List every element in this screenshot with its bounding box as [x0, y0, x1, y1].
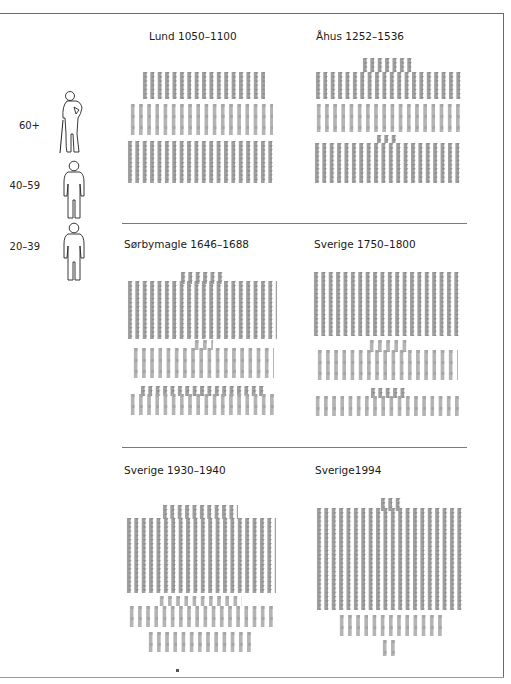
band-20-39: [127, 141, 275, 183]
frame-bottom-border: [0, 677, 504, 678]
band-40-59-peak: [158, 596, 242, 606]
frame-top-border: [0, 13, 504, 14]
panel-title-sorbymagle: Sørbymagle 1646–1688: [124, 238, 249, 250]
elderly-person-with-cane-icon: [58, 90, 86, 156]
band-20-39: [381, 640, 397, 656]
bottom-mark: [176, 669, 179, 672]
band-60plus: [127, 281, 277, 339]
row-divider-1: [122, 223, 467, 224]
band-20-39: [314, 396, 460, 416]
band-20-39: [314, 143, 461, 183]
band-60plus-peak: [162, 505, 238, 519]
frame-right-border: [503, 13, 504, 677]
band-60plus-peak: [362, 58, 412, 72]
legend-label-60plus: 60+: [0, 120, 40, 131]
band-40-59: [129, 104, 273, 135]
band-60plus: [316, 508, 464, 610]
row-divider-2: [122, 447, 467, 448]
legend-label-20-39: 20–39: [0, 241, 40, 252]
panel-title-sverige-1994: Sverige1994: [315, 464, 381, 476]
band-40-59: [316, 350, 458, 380]
band-20-39-peak: [376, 135, 396, 143]
young-adult-person-icon: [62, 222, 86, 284]
band-40-59: [132, 348, 274, 378]
band-60plus: [313, 272, 461, 336]
band-60plus: [126, 518, 276, 593]
panel-title-ahus: Åhus 1252–1536: [316, 30, 404, 42]
band-40-59: [315, 104, 460, 132]
band-60plus: [142, 72, 265, 99]
adult-person-icon: [62, 160, 86, 222]
legend-label-40-59: 40–59: [0, 180, 40, 191]
band-20-39: [129, 394, 275, 415]
band-20-39: [147, 632, 255, 652]
panel-title-sverige-1930: Sverige 1930–1940: [124, 464, 226, 476]
panel-title-lund: Lund 1050–1100: [149, 30, 237, 42]
band-40-59: [128, 606, 274, 627]
band-60plus: [315, 72, 463, 99]
panel-title-sverige-1750: Sverige 1750–1800: [314, 238, 416, 250]
band-40-59: [338, 615, 444, 636]
